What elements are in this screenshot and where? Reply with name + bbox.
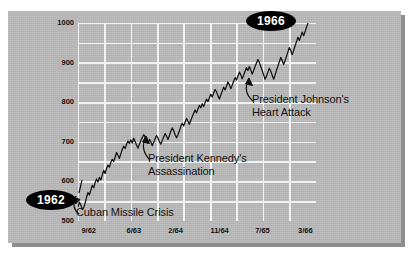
x-tick-7-65: 7/65 bbox=[255, 226, 270, 235]
badge-year-1966: 1966 bbox=[246, 11, 296, 31]
y-tick-1000: 1000 bbox=[57, 19, 74, 27]
x-tick-6-63: 6/63 bbox=[127, 226, 142, 235]
annotation-cuban-missile-crisis: Cuban Missile Crisis bbox=[76, 206, 174, 219]
x-tick-3-66: 3/66 bbox=[298, 226, 313, 235]
annotation-kennedy-line2: Assassination bbox=[148, 165, 247, 178]
chart-screenshot: 1000 900 800 700 600 500 9/62 6/63 2/64 … bbox=[0, 0, 415, 255]
grid bbox=[78, 23, 316, 221]
cut-off-title bbox=[100, 0, 320, 9]
annotation-kennedy: President Kennedy's Assassination bbox=[148, 152, 247, 178]
annotation-johnson-line1: President Johnson's bbox=[252, 93, 349, 106]
plot-area bbox=[78, 23, 316, 221]
x-tick-11-64: 11/64 bbox=[210, 226, 228, 235]
y-tick-900: 900 bbox=[61, 59, 74, 67]
x-tick-2-64: 2/64 bbox=[168, 226, 183, 235]
x-tick-9-62: 9/62 bbox=[81, 226, 96, 235]
y-tick-800: 800 bbox=[61, 98, 74, 106]
y-tick-600: 600 bbox=[61, 177, 74, 185]
chart-svg bbox=[78, 23, 316, 221]
annotation-johnson-line2: Heart Attack bbox=[252, 106, 349, 119]
x-axis-labels: 9/62 6/63 2/64 11/64 7/65 3/66 bbox=[78, 226, 316, 238]
y-tick-700: 700 bbox=[61, 138, 74, 146]
annotation-kennedy-line1: President Kennedy's bbox=[148, 152, 247, 165]
badge-year-1962: 1962 bbox=[26, 190, 76, 210]
y-tick-500: 500 bbox=[61, 217, 74, 225]
annotation-johnson: President Johnson's Heart Attack bbox=[252, 93, 349, 119]
